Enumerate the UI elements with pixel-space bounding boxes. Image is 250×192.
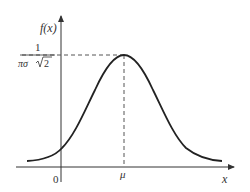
y-axis-label: f(x) — [40, 21, 57, 35]
peak-numerator: 1 — [35, 41, 41, 53]
mean-label: μ — [119, 168, 126, 180]
normal-distribution-diagram: f(x) x 0 μ 1 πσ 2 — [0, 0, 250, 192]
peak-denominator-prefix: πσ — [18, 58, 29, 69]
peak-denominator-root: 2 — [44, 58, 49, 69]
origin-label: 0 — [53, 173, 59, 185]
x-axis-label: x — [221, 172, 228, 186]
